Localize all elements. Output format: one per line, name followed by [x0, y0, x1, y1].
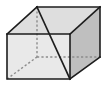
cube-figure [0, 0, 108, 92]
cube-diagram-svg [0, 0, 108, 92]
